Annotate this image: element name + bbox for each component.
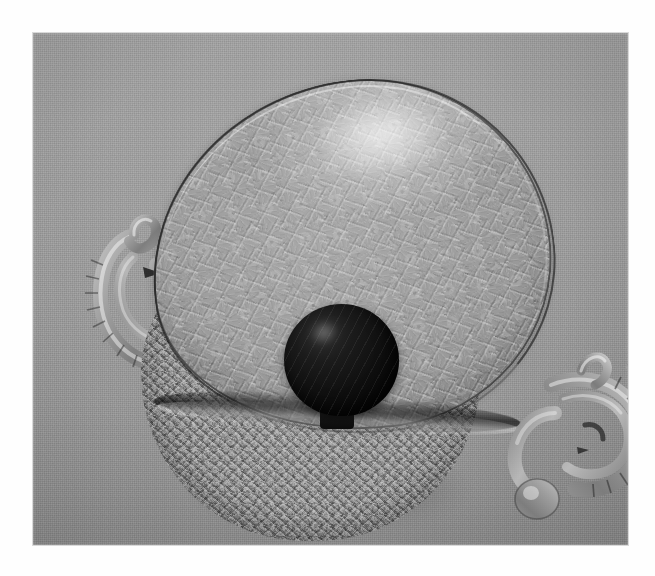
photograph — [33, 33, 628, 545]
knob-streaks — [284, 304, 399, 416]
handle-right — [511, 351, 628, 521]
screenshot-root — [0, 0, 655, 576]
knob-finial — [284, 304, 399, 416]
glass-covered-bowl — [33, 33, 628, 545]
